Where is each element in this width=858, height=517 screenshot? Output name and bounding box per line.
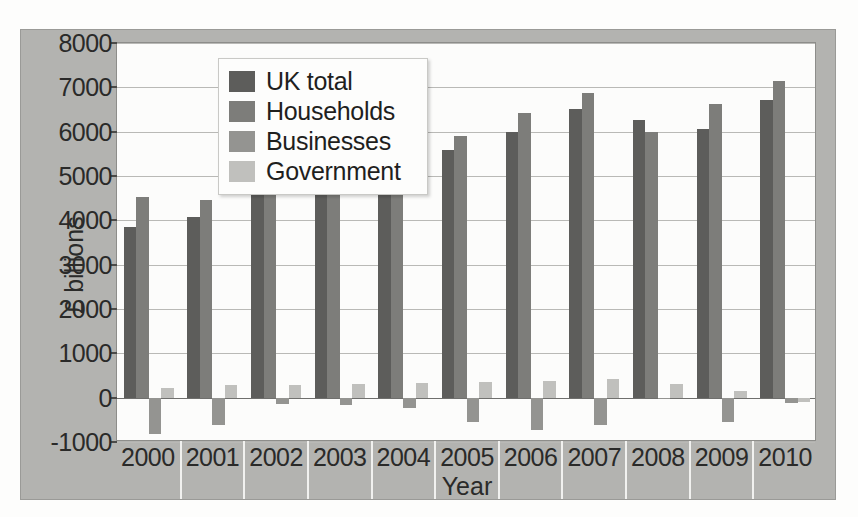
x-tick-label: 2004 [373,443,435,472]
legend-item: Households [229,96,417,126]
bar [212,398,225,425]
legend-label-government: Government [266,159,401,184]
x-axis-categories: 200020012002200320042005Year200620072008… [116,441,816,499]
bar-group [117,43,181,440]
x-tick-label: 2001 [182,443,244,472]
bar [670,384,683,398]
bar [276,398,289,404]
bar [594,398,607,425]
bar-group [626,43,690,440]
x-tick-label: 2005 [436,443,498,472]
bar [200,200,213,397]
x-axis-category-2006: 2006 [498,441,562,499]
bar [467,398,480,422]
x-axis-category-2008: 2008 [625,441,689,499]
bar-group [753,43,817,440]
legend-swatch-households [229,101,255,122]
x-tick-label: 2003 [309,443,371,472]
x-axis-category-2005: 2005Year [434,441,498,499]
y-tick-label: 3000 [58,250,112,279]
plot-area: 800070006000500040003000200010000-1000 U… [116,42,816,441]
y-tick-label: 4000 [58,206,112,235]
bar [124,227,137,398]
y-tick-label: 1000 [58,339,112,368]
x-axis-category-2000: 2000 [116,441,180,499]
legend-swatch-businesses [229,131,255,152]
legend-item: Government [229,156,417,186]
legend-item: UK total [229,66,417,96]
x-tick-label: 2010 [754,443,816,472]
bar [658,398,671,400]
legend-item: Businesses [229,126,417,156]
bar [136,197,149,397]
bar [582,93,595,398]
bar-group [690,43,754,440]
y-tick-label: 2000 [58,295,112,324]
bar [607,379,620,398]
x-axis-category-2001: 2001 [180,441,244,499]
bar [531,398,544,430]
bar [403,398,416,409]
legend-label-uk-total: UK total [266,69,353,94]
bar [773,81,786,398]
bar [442,150,455,397]
y-tick-label: 8000 [58,29,112,58]
x-axis-label: Year [436,472,498,501]
legend-swatch-government [229,161,255,182]
x-tick-label: 2008 [627,443,689,472]
chart-legend: UK total Households Businesses Governmen… [218,58,428,195]
bar [645,132,658,398]
x-tick-label: 2002 [245,443,307,472]
x-axis-category-2003: 2003 [307,441,371,499]
bar-group [435,43,499,440]
bar [518,113,531,398]
bar [225,385,238,397]
x-tick-label: 2007 [563,443,625,472]
bar [352,384,365,397]
bar [149,398,162,435]
bar [569,109,582,398]
x-tick-label: 2000 [116,443,180,472]
bar-group [562,43,626,440]
x-axis-category-2010: 2010 [752,441,816,499]
x-axis-category-2007: 2007 [561,441,625,499]
legend-label-businesses: Businesses [266,129,391,154]
bar [416,383,429,397]
x-axis-category-2009: 2009 [689,441,753,499]
x-tick-label: 2009 [691,443,753,472]
bar [734,391,747,398]
x-axis-category-2004: 2004 [371,441,435,499]
bar [798,398,811,402]
bar [479,382,492,398]
bar [697,129,710,397]
legend-label-households: Households [266,99,395,124]
y-tick-label: 0 [99,383,112,412]
bar-group [499,43,563,440]
bar [633,120,646,398]
bar [785,398,798,404]
y-tick-label: 7000 [58,73,112,102]
bar [543,381,556,398]
bar [187,217,200,397]
legend-swatch-uk-total [229,71,255,92]
chart-figure: £ billions 80007000600050004000300020001… [20,29,836,500]
y-tick-label: 6000 [58,117,112,146]
bar [251,192,264,398]
bar [340,398,353,406]
bar [264,195,277,398]
y-tick-label: -1000 [51,428,112,457]
x-axis-category-2002: 2002 [243,441,307,499]
bar [289,385,302,398]
bar [315,176,328,398]
x-tick-label: 2006 [500,443,562,472]
bar [506,132,519,398]
bar [722,398,735,422]
bar [161,388,174,398]
y-tick-label: 5000 [58,162,112,191]
bar [760,100,773,397]
bar [709,104,722,398]
bar [327,178,340,398]
bar [454,136,467,398]
